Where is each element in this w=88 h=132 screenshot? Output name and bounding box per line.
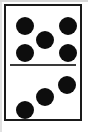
pip-bottom-right xyxy=(59,44,77,62)
pip-bottom-left xyxy=(16,44,34,62)
pip-lower-left xyxy=(16,101,34,119)
page-margin-top xyxy=(0,0,88,2)
domino-half-bottom xyxy=(6,66,80,123)
pip-center xyxy=(36,31,54,49)
pip-top-right xyxy=(59,17,77,35)
pip-upper-right xyxy=(58,76,76,94)
domino-tile xyxy=(4,4,82,121)
domino-half-top xyxy=(6,6,80,65)
pip-middle xyxy=(36,88,54,106)
pip-top-left xyxy=(16,17,34,35)
domino-image xyxy=(0,0,88,132)
page-margin-left xyxy=(0,2,2,132)
